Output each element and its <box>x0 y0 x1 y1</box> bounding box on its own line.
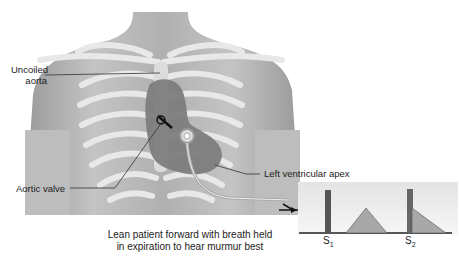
chest-illustration <box>0 0 459 257</box>
s1-spike <box>325 190 331 233</box>
caption: Lean patient forward with breath held in… <box>80 229 300 253</box>
label-uncoiled-aorta-line2: aorta <box>11 75 47 86</box>
label-uncoiled-aorta-line1: Uncoiled <box>11 64 47 75</box>
phonocardiogram <box>279 182 458 234</box>
s1-label: S1 <box>323 235 334 250</box>
arm-left <box>25 130 70 215</box>
label-uncoiled-aorta: Uncoiled aorta <box>11 64 47 86</box>
label-aortic-valve: Aortic valve <box>16 183 65 194</box>
caption-line1: Lean patient forward with breath held <box>80 229 300 241</box>
caption-line2: in expiration to hear murmur best <box>80 241 300 253</box>
s2-label: S2 <box>405 235 416 250</box>
label-left-ventricular-apex: Left ventricular apex <box>264 168 350 179</box>
